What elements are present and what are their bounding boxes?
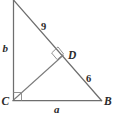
side-label-a: a <box>54 103 60 115</box>
measure-label-6: 6 <box>86 73 91 84</box>
vertex-label-b: B <box>103 95 112 107</box>
measure-label-9: 9 <box>41 21 46 32</box>
vertex-label-c: C <box>2 95 10 107</box>
geometry-diagram: C B D b a 9 6 <box>0 0 116 116</box>
segment-altitude-cd <box>14 55 64 100</box>
side-label-b: b <box>3 42 9 54</box>
triangle-figure: C B D b a 9 6 <box>0 0 116 116</box>
right-angle-mark-d <box>52 47 64 60</box>
segment-hypotenuse <box>14 0 102 101</box>
vertex-label-d: D <box>67 49 77 61</box>
